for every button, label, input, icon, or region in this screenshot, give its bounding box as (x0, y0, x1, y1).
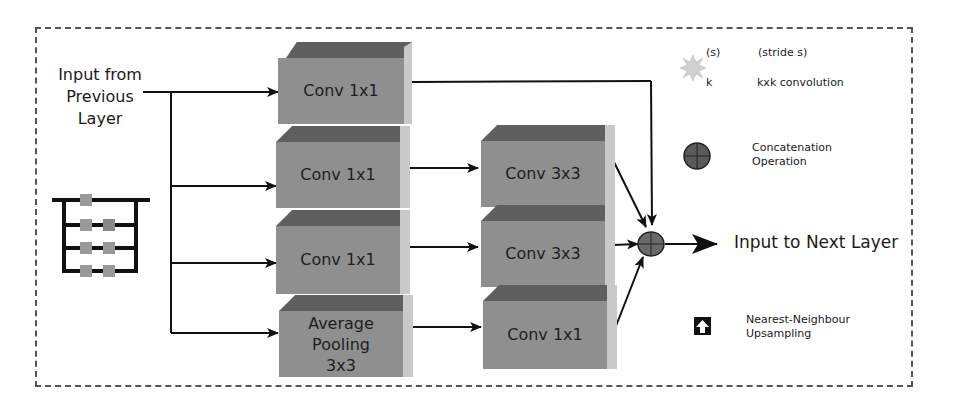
upsample-legend-text: Nearest-Neighbour Upsampling (746, 313, 850, 341)
concat-node (638, 232, 664, 256)
avgpool-block: Average Pooling 3x3 (279, 295, 413, 377)
legend-line: Concatenation (752, 141, 832, 155)
block-label: Conv 1x1 (276, 226, 400, 294)
star-legend-icon (680, 55, 706, 81)
legend-line: Upsampling (746, 327, 850, 341)
conv1x1-block-2: Conv 1x1 (276, 126, 410, 208)
concat-legend-text: Concatenation Operation (752, 141, 832, 169)
block-label-line: Pooling (312, 334, 370, 355)
stride-text: (stride s) (758, 46, 807, 60)
conv1x1-block-4: Conv 1x1 (483, 285, 617, 369)
block-label: Conv 1x1 (483, 301, 607, 369)
conv3x3-block-2: Conv 3x3 (481, 205, 615, 287)
legend-line: Operation (752, 155, 832, 169)
input-label: Input from Previous Layer (40, 64, 160, 130)
input-label-line: Layer (40, 108, 160, 130)
input-label-line: Previous (40, 86, 160, 108)
kernel-text: kxk convolution (757, 76, 844, 90)
kernel-marker: k (706, 76, 712, 90)
connections (0, 0, 953, 417)
upsample-legend-icon (694, 317, 711, 335)
conv1x1-block-3: Conv 1x1 (276, 210, 410, 294)
block-label: Average Pooling 3x3 (279, 311, 403, 377)
block-label: Conv 3x3 (481, 141, 605, 207)
legend-line: Nearest-Neighbour (746, 313, 850, 327)
block-label-line: 3x3 (326, 355, 356, 376)
concat-legend-icon (684, 143, 710, 169)
output-label: Input to Next Layer (734, 232, 898, 252)
block-label: Conv 1x1 (278, 58, 404, 124)
block-label: Conv 1x1 (276, 142, 400, 208)
ladder-icon (52, 194, 150, 277)
block-label-line: Average (308, 313, 374, 334)
block-label: Conv 3x3 (481, 221, 605, 287)
conv1x1-block-1: Conv 1x1 (278, 42, 412, 124)
conv3x3-block-1: Conv 3x3 (481, 125, 615, 207)
stride-marker: (s) (706, 46, 720, 60)
input-label-line: Input from (40, 64, 160, 86)
